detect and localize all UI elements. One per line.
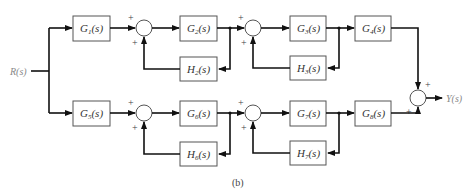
figure-caption: (b) (232, 177, 244, 189)
sign-plus: + (128, 97, 134, 108)
block-h2-label: H2(s) (186, 63, 210, 77)
block-h6-label: H6(s) (186, 148, 210, 162)
output-label: Y(s) (446, 93, 463, 105)
summing-junction-4 (245, 105, 261, 121)
block-g4-label: G4(s) (362, 22, 385, 36)
sign-plus: + (425, 79, 431, 90)
summing-junction-2 (245, 20, 261, 36)
block-g2-label: G2(s) (187, 22, 210, 36)
block-g5-label: G5(s) (80, 107, 103, 121)
block-h7-label: H7(s) (296, 147, 320, 161)
sign-plus: + (241, 37, 247, 48)
summing-junction-3 (136, 105, 152, 121)
block-diagram: R(s) G1(s) + + G2(s) H2(s) + + G3(s) H3(… (0, 0, 473, 190)
block-h3-label: H3(s) (296, 62, 320, 76)
sign-plus: + (132, 122, 138, 133)
sign-plus: + (406, 106, 412, 117)
block-g3-label: G3(s) (297, 22, 320, 36)
block-g1-label: G1(s) (80, 22, 103, 36)
output-summing-junction (410, 90, 426, 106)
block-g7-label: G7(s) (297, 107, 320, 121)
bottom-branch: G5(s) + + G6(s) H6(s) + + G7(s) H7(s) G8… (73, 97, 418, 166)
summing-junction-1 (136, 20, 152, 36)
sign-plus: + (132, 37, 138, 48)
sign-plus: + (238, 12, 244, 23)
block-g8-label: G8(s) (362, 107, 385, 121)
sign-plus: + (241, 122, 247, 133)
sign-plus: + (128, 12, 134, 23)
input-label: R(s) (9, 66, 27, 78)
block-g6-label: G6(s) (187, 107, 210, 121)
top-branch: G1(s) + + G2(s) H2(s) + + G3(s) H3(s) G4… (73, 12, 418, 89)
sign-plus: + (238, 97, 244, 108)
